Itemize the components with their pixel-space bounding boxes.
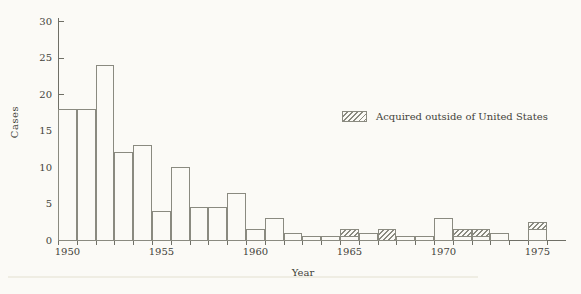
- x-tick: [453, 241, 454, 245]
- x-tick-label: 1955: [149, 247, 174, 257]
- x-tick: [472, 241, 473, 245]
- bar-1961: [265, 218, 284, 241]
- bar-1954: [133, 145, 152, 241]
- y-tick: [59, 21, 64, 22]
- bar-1967: [378, 229, 397, 241]
- x-tick: [302, 241, 303, 245]
- x-tick: [227, 241, 228, 245]
- bar-1955: [152, 211, 171, 241]
- bar-1958: [208, 207, 227, 241]
- bar-1970: [434, 218, 453, 241]
- x-tick-label: 1960: [243, 247, 268, 257]
- bar-1950: [58, 109, 77, 241]
- x-tick: [490, 241, 491, 245]
- bar-1966: [359, 233, 378, 241]
- bar-1964: [321, 236, 340, 241]
- x-tick: [509, 241, 510, 245]
- x-tick: [415, 241, 416, 245]
- bar-1951: [77, 109, 96, 241]
- x-tick-label: 1965: [337, 247, 362, 257]
- bar-1975: [528, 222, 547, 241]
- chart-figure: Cases Year 05101520253019501955196019651…: [0, 0, 581, 294]
- x-tick-label: 1975: [525, 247, 550, 257]
- bar-1965-hatched-segment: [341, 230, 358, 237]
- x-tick-label: 1950: [55, 247, 80, 257]
- y-tick: [59, 58, 64, 59]
- bar-1969: [415, 236, 434, 241]
- bar-1971: [453, 229, 472, 241]
- x-tick: [378, 241, 379, 245]
- x-tick: [208, 241, 209, 245]
- bar-1963: [302, 236, 321, 241]
- bar-1973: [490, 233, 509, 241]
- y-tick-label: 20: [28, 90, 52, 100]
- bar-1965: [340, 229, 359, 241]
- y-tick-label: 10: [28, 163, 52, 173]
- y-tick-label: 15: [28, 126, 52, 136]
- bar-1953: [114, 152, 133, 241]
- bar-1967-hatched-segment: [379, 230, 396, 241]
- x-tick: [133, 241, 134, 245]
- x-tick: [246, 241, 247, 245]
- page-shadow-line: [8, 276, 478, 278]
- bar-1959: [227, 193, 246, 241]
- bar-1956: [171, 167, 190, 241]
- x-tick: [114, 241, 115, 245]
- bar-1975-hatched-segment: [529, 223, 546, 230]
- x-tick: [340, 241, 341, 245]
- y-tick-label: 25: [28, 53, 52, 63]
- x-tick: [77, 241, 78, 245]
- x-tick: [58, 241, 59, 245]
- x-tick: [528, 241, 529, 245]
- x-tick: [359, 241, 360, 245]
- x-tick: [96, 241, 97, 245]
- y-tick-label: 5: [28, 199, 52, 209]
- y-tick-label: 0: [28, 236, 52, 246]
- x-tick: [152, 241, 153, 245]
- x-tick: [190, 241, 191, 245]
- x-tick: [171, 241, 172, 245]
- legend-label: Acquired outside of United States: [376, 111, 548, 122]
- bar-1972: [472, 229, 491, 241]
- y-tick-label: 30: [28, 17, 52, 27]
- x-tick: [434, 241, 435, 245]
- y-tick: [59, 94, 64, 95]
- hatched-swatch-icon: [342, 111, 367, 122]
- bar-1960: [246, 229, 265, 241]
- x-tick: [547, 241, 548, 245]
- bar-1972-hatched-segment: [473, 230, 490, 237]
- bar-1971-hatched-segment: [454, 230, 471, 237]
- x-tick: [284, 241, 285, 245]
- x-tick: [321, 241, 322, 245]
- y-axis-title: Cases: [9, 106, 20, 138]
- bar-1968: [396, 236, 415, 241]
- legend: Acquired outside of United States: [342, 111, 548, 122]
- bar-1952: [96, 65, 115, 241]
- bar-1957: [190, 207, 209, 241]
- x-tick: [265, 241, 266, 245]
- bar-1962: [284, 233, 303, 241]
- x-tick-label: 1970: [431, 247, 456, 257]
- x-tick: [396, 241, 397, 245]
